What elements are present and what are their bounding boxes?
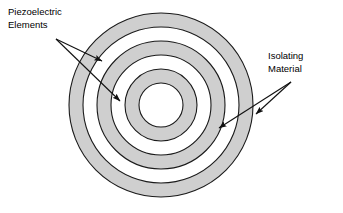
leader-isolating-outer (256, 82, 291, 114)
label-isolating-line1: Isolating (268, 50, 303, 63)
figure-canvas: Piezoelectric Elements Isolating Materia… (0, 0, 343, 213)
label-isolating-material: Isolating Material (268, 50, 303, 75)
label-piezoelectric-line2: Elements (8, 19, 62, 32)
label-isolating-line2: Material (268, 63, 303, 76)
label-piezoelectric-elements: Piezoelectric Elements (8, 6, 62, 31)
concentric-ring-diagram (0, 0, 343, 213)
ring-stack (69, 13, 253, 197)
ring-5-core-isolating (139, 83, 183, 127)
label-piezoelectric-line1: Piezoelectric (8, 6, 62, 19)
